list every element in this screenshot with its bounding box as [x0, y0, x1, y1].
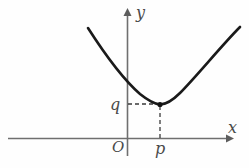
vertex-y-label: q: [110, 97, 120, 113]
parabola-curve: [88, 27, 240, 105]
y-axis-label: y: [136, 5, 145, 21]
y-axis-arrowhead: [124, 8, 132, 16]
vertex-x-label: p: [155, 141, 165, 157]
parabola-figure: y x q p O: [0, 0, 249, 168]
vertex-point: [157, 102, 162, 107]
x-axis-label: x: [228, 120, 237, 136]
origin-label: O: [112, 140, 124, 155]
graph-canvas: [0, 0, 249, 168]
